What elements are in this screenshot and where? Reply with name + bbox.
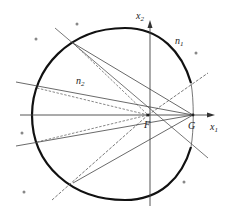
ray-F-left-lower (37, 115, 148, 142)
point-G-label: G (188, 120, 195, 131)
region-n2-label: n2 (76, 75, 85, 88)
region-n1-label: n1 (175, 35, 184, 48)
line-upper-left-diagonal (55, 28, 208, 158)
line-lower-left-diagonal-ext (148, 73, 208, 115)
line-lower-left-diagonal (52, 115, 148, 200)
marker-icon (183, 181, 186, 184)
point-F-marker (146, 113, 149, 116)
marker-icon (21, 132, 24, 135)
point-F-label: F (143, 119, 151, 130)
diagram-figure: x2 n1 n2 F G x1 (0, 0, 231, 218)
marker-icon (23, 191, 26, 194)
marker-icon (35, 38, 38, 41)
ray-F-upper (73, 43, 148, 115)
x1-arrow-icon (207, 113, 215, 118)
x1-axis-label: x1 (209, 121, 218, 134)
boundary-curve (32, 28, 191, 200)
ray-G-left-upper (16, 82, 193, 115)
marker-icon (76, 23, 79, 26)
x2-axis-label: x2 (135, 10, 144, 23)
ray-F-left-upper (37, 88, 148, 115)
marker-icon (195, 52, 198, 55)
point-G-marker (192, 114, 195, 117)
x2-arrow-icon (148, 20, 153, 28)
